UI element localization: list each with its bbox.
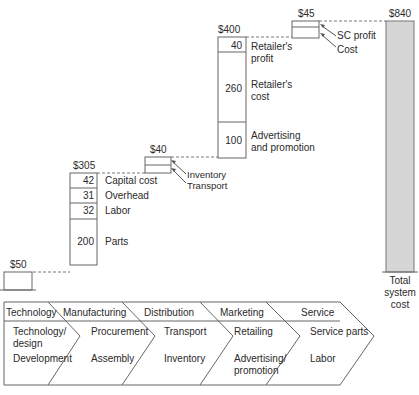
manufacturing-overhead-value: 31 (83, 190, 95, 201)
tech-item-1b: design (13, 338, 42, 349)
marketing-profit-label-1: Retailer's (251, 41, 292, 52)
sc-profit-label: SC profit (337, 30, 376, 41)
dist-item-1: Transport (164, 326, 207, 337)
marketing-cost-label-2: cost (251, 91, 270, 102)
total-label-2: system (384, 287, 416, 298)
mkt-item-1: Retailing (234, 326, 273, 337)
supply-chain-cost-diagram: $50 $305 42 31 32 200 Capital cost Overh… (0, 0, 419, 395)
marketing-cost-value: 260 (225, 83, 242, 94)
mfg-item-1: Procurement (91, 326, 148, 337)
marketing-adv-label-2: and promotion (251, 142, 315, 153)
manufacturing-capital-value: 42 (83, 175, 95, 186)
distribution-total-label: $40 (150, 144, 167, 155)
manufacturing-labor-label: Labor (105, 205, 131, 216)
tech-item-2: Development (13, 353, 72, 364)
total-label-3: cost (391, 299, 410, 310)
manufacturing-overhead-label: Overhead (105, 190, 149, 201)
marketing-profit-value: 40 (231, 40, 243, 51)
stage-header-technology: Technology (6, 307, 57, 318)
service-bar: $45 SC profit Cost (292, 8, 376, 55)
service-total-label: $45 (298, 8, 315, 19)
svc-item-2: Labor (310, 353, 336, 364)
stage-header-manufacturing: Manufacturing (63, 307, 126, 318)
manufacturing-capital-label: Capital cost (105, 175, 157, 186)
stage-header-service: Service (301, 307, 335, 318)
dist-item-2: Inventory (164, 353, 205, 364)
marketing-profit-label-2: profit (251, 53, 273, 64)
total-system-cost-bar: $840 Total system cost (382, 8, 418, 310)
stage-header-distribution: Distribution (144, 307, 194, 318)
service-cost-label: Cost (337, 44, 358, 55)
marketing-cost-label-1: Retailer's (251, 79, 292, 90)
inventory-label: Inventory (187, 169, 226, 180)
technology-total-label: $50 (10, 259, 27, 270)
tech-item-1a: Technology/ (13, 326, 67, 337)
marketing-adv-label-1: Advertising (251, 130, 300, 141)
technology-bar: $50 (0, 259, 36, 290)
marketing-total-label: $400 (218, 24, 241, 35)
transport-label: Transport (187, 180, 228, 191)
total-value-label: $840 (389, 8, 412, 19)
manufacturing-total-label: $305 (73, 160, 96, 171)
manufacturing-labor-value: 32 (83, 205, 95, 216)
total-label-1: Total (389, 275, 410, 286)
marketing-bar: $400 40 260 100 Retailer's profit Retail… (218, 24, 315, 158)
marketing-adv-value: 100 (225, 135, 242, 146)
svc-item-1: Service parts (310, 326, 368, 337)
manufacturing-parts-label: Parts (105, 236, 128, 247)
manufacturing-bar: $305 42 31 32 200 Capital cost Overhead … (70, 160, 157, 265)
mkt-item-2b: promotion (234, 365, 278, 376)
mkt-item-2a: Advertising/ (234, 353, 286, 364)
cost-pointer (322, 35, 336, 47)
stage-header-marketing: Marketing (220, 307, 264, 318)
manufacturing-parts-value: 200 (77, 236, 94, 247)
distribution-bar: $40 Inventory Transport (145, 144, 228, 191)
mfg-item-2: Assembly (91, 353, 134, 364)
